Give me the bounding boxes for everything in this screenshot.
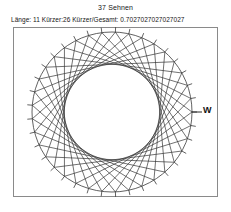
chord-diagram-svg bbox=[0, 0, 231, 212]
tick-mark bbox=[142, 33, 144, 38]
tick-mark bbox=[191, 126, 196, 127]
tick-mark bbox=[30, 132, 35, 133]
chord-lines bbox=[32, 32, 192, 192]
tick-mark bbox=[182, 151, 186, 153]
chord-line bbox=[154, 52, 165, 180]
plot-area bbox=[0, 0, 231, 212]
chord-line bbox=[154, 44, 165, 172]
chord-line bbox=[46, 157, 175, 162]
chord-line bbox=[46, 67, 89, 188]
tick-mark bbox=[191, 98, 196, 99]
tick-mark bbox=[165, 172, 168, 176]
chord-line bbox=[76, 41, 191, 99]
tick-mark bbox=[51, 167, 55, 170]
tick-mark bbox=[30, 91, 35, 92]
tick-mark bbox=[61, 44, 64, 48]
tick-mark bbox=[51, 53, 55, 56]
tick-mark bbox=[42, 64, 46, 67]
tick-mark bbox=[154, 40, 157, 44]
chord-line bbox=[76, 126, 191, 184]
tick-mark bbox=[129, 29, 130, 34]
tick-mark bbox=[174, 162, 178, 165]
chord-line bbox=[89, 36, 192, 112]
w-point-label: W bbox=[203, 105, 212, 115]
tick-mark bbox=[182, 71, 186, 73]
tick-mark bbox=[101, 191, 102, 196]
tick-mark bbox=[61, 176, 64, 180]
tick-mark bbox=[129, 190, 130, 195]
plot-frame bbox=[14, 28, 218, 197]
chord-line bbox=[32, 105, 129, 190]
tick-mark bbox=[74, 183, 76, 187]
tick-mark bbox=[42, 157, 46, 160]
chart-page: 37 Sehnen Länge: 11 Kürzer:26 Kürzer/Ges… bbox=[0, 0, 231, 212]
tick-mark bbox=[74, 36, 76, 40]
tick-mark bbox=[142, 186, 144, 191]
tick-mark bbox=[35, 145, 40, 147]
tick-mark bbox=[187, 84, 192, 86]
chord-line bbox=[32, 119, 142, 186]
tick-mark bbox=[174, 59, 178, 62]
tick-mark bbox=[87, 188, 88, 193]
tick-mark bbox=[35, 77, 40, 79]
tick-mark bbox=[187, 139, 192, 141]
chord-line bbox=[89, 112, 192, 188]
tick-mark bbox=[154, 180, 157, 184]
tick-mark bbox=[87, 31, 88, 36]
chord-line bbox=[46, 62, 175, 67]
chord-line bbox=[54, 151, 182, 167]
chord-line bbox=[32, 34, 129, 119]
chord-line bbox=[39, 52, 165, 79]
tick-mark bbox=[101, 28, 102, 33]
chord-line bbox=[46, 36, 89, 157]
chord-line bbox=[54, 57, 182, 73]
chord-line bbox=[39, 145, 165, 172]
tick-mark bbox=[165, 48, 168, 52]
chord-line bbox=[32, 38, 142, 105]
